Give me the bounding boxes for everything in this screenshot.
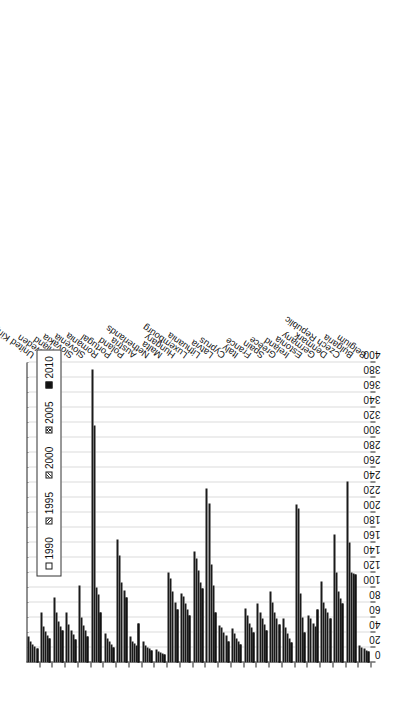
bar-2010 — [61, 631, 63, 663]
bar-2010 — [239, 644, 241, 662]
bar-2010 — [201, 589, 203, 663]
category-tick — [77, 662, 78, 667]
bar-group — [357, 362, 370, 662]
value-tick — [370, 496, 375, 497]
value-tick-label: 20 — [368, 633, 380, 643]
bar-group — [243, 362, 256, 662]
value-tick-label: 80 — [368, 588, 380, 598]
bar-group — [332, 362, 345, 662]
bar-group — [281, 362, 294, 662]
value-tick — [370, 421, 375, 422]
bar-2010 — [48, 638, 50, 662]
bar-group — [319, 362, 332, 662]
bar-group — [217, 362, 230, 662]
bar-group — [268, 362, 281, 662]
legend-item-2010: 2010 — [44, 356, 54, 388]
bar-2010 — [367, 652, 369, 663]
bar-group — [192, 362, 205, 662]
value-tick-label: 280 — [363, 438, 380, 448]
bar-2010 — [278, 625, 280, 663]
legend-label: 2005 — [44, 401, 54, 423]
bar-2010 — [137, 623, 139, 662]
bar-2010 — [303, 632, 305, 662]
category-tick — [217, 662, 218, 667]
legend-swatch-2000 — [45, 472, 52, 479]
category-tick — [243, 662, 244, 667]
value-tick-label: 40 — [368, 618, 380, 628]
bar-2010 — [341, 604, 343, 663]
legend-item-2005: 2005 — [44, 401, 54, 433]
value-tick-label: 140 — [363, 543, 380, 553]
bar-2010 — [354, 574, 356, 662]
category-tick — [102, 662, 103, 667]
category-tick — [255, 662, 256, 667]
bar-group — [294, 362, 307, 662]
bar-group — [90, 362, 103, 662]
category-tick — [268, 662, 269, 667]
bar-2010 — [125, 598, 127, 663]
value-tick-label: 260 — [363, 453, 380, 463]
category-tick — [153, 662, 154, 667]
category-tick — [332, 662, 333, 667]
value-axis-baseline — [26, 362, 27, 662]
bar-2010 — [329, 619, 331, 663]
legend-label: 2010 — [44, 356, 54, 378]
legend-swatch-2005 — [45, 426, 52, 433]
value-tick — [370, 631, 375, 632]
value-tick-label: 340 — [363, 393, 380, 403]
category-axis-ticks — [26, 662, 370, 667]
value-tick — [370, 571, 375, 572]
category-tick — [51, 662, 52, 667]
bar-2010 — [290, 642, 292, 662]
category-tick — [90, 662, 91, 667]
bar-group — [345, 362, 358, 662]
bar-group — [179, 362, 192, 662]
rotated-chart-container: BelgiumBulgariaCzech RepublicDenmarkGerm… — [0, 0, 403, 714]
value-tick-label: 0 — [374, 648, 380, 658]
value-tick — [370, 406, 375, 407]
value-tick-label: 120 — [363, 558, 380, 568]
legend-item-1990: 1990 — [44, 537, 54, 569]
bar-2010 — [150, 650, 152, 662]
category-tick — [370, 662, 371, 667]
bar-group — [204, 362, 217, 662]
value-tick — [370, 661, 375, 662]
value-tick-label: 360 — [363, 378, 380, 388]
category-tick — [281, 662, 282, 667]
category-axis-labels: BelgiumBulgariaCzech RepublicDenmarkGerm… — [26, 242, 370, 362]
bar-group — [128, 362, 141, 662]
category-tick — [306, 662, 307, 667]
legend-label: 1995 — [44, 492, 54, 514]
bar-groups — [26, 362, 370, 662]
bar-2010 — [252, 632, 254, 662]
bar-group — [141, 362, 154, 662]
bar-2010 — [265, 631, 267, 663]
value-tick-label: 320 — [363, 408, 380, 418]
value-tick — [370, 466, 375, 467]
category-tick — [357, 662, 358, 667]
category-tick — [294, 662, 295, 667]
value-tick — [370, 376, 375, 377]
bar-2010 — [188, 616, 190, 663]
value-tick — [370, 361, 375, 362]
value-axis-tickmarks — [370, 362, 375, 662]
category-tick — [192, 662, 193, 667]
value-tick — [370, 451, 375, 452]
legend-swatch-2010 — [45, 381, 52, 388]
bar-group — [306, 362, 319, 662]
value-tick-label: 60 — [368, 603, 380, 613]
value-tick — [370, 436, 375, 437]
plot-area: BelgiumBulgariaCzech RepublicDenmarkGerm… — [26, 362, 370, 662]
bar-2010 — [227, 641, 229, 662]
value-tick-label: 200 — [363, 498, 380, 508]
bar-group — [64, 362, 77, 662]
category-tick — [204, 662, 205, 667]
value-tick-label: 220 — [363, 483, 380, 493]
bar-2010 — [214, 613, 216, 663]
value-tick-label: 400 — [363, 348, 380, 358]
legend: 19901995200020052010 — [36, 349, 61, 576]
value-tick — [370, 616, 375, 617]
chart-figure: BelgiumBulgariaCzech RepublicDenmarkGerm… — [0, 0, 403, 714]
bar-group — [255, 362, 268, 662]
category-tick — [64, 662, 65, 667]
